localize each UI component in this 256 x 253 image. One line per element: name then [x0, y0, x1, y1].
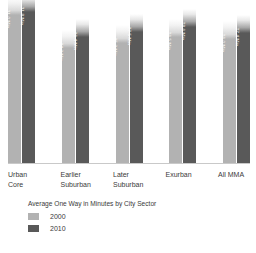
- bar-group-all-mma: 26.0 Min 27.4 Min: [223, 0, 250, 164]
- legend-item-2010[interactable]: 2010: [28, 225, 250, 232]
- category-label-all-mma: All MMA: [218, 170, 250, 189]
- bar-exurban-2000[interactable]: 26.5 Min: [169, 37, 182, 164]
- bar-group-urban-core: 31.0 Min 31.8 Min: [8, 0, 35, 164]
- bar-value-label: 31.0 Min: [2, 10, 15, 28]
- bar-exurban-2010[interactable]: 28.6 Min: [183, 27, 196, 164]
- bar-value-label: 27.4 Min: [231, 27, 244, 45]
- bar-all-mma-2000[interactable]: 26.0 Min: [223, 39, 236, 164]
- bar-all-mma-2010[interactable]: 27.4 Min: [237, 33, 250, 164]
- bar-value-label: 26.4 Min: [69, 32, 82, 50]
- category-axis-labels: Urban Core Earlier Suburban Later Suburb…: [8, 170, 250, 189]
- bar-urban-core-2010[interactable]: 31.8 Min: [22, 12, 35, 164]
- bar-value-label: 25.3 Min: [109, 37, 122, 55]
- bar-group-exurban: 26.5 Min 28.6 Min: [169, 0, 196, 164]
- legend-label-2010: 2010: [50, 225, 66, 232]
- legend-item-2000[interactable]: 2000: [28, 213, 250, 220]
- bar-later-suburban-2000[interactable]: 25.3 Min: [116, 43, 129, 164]
- bar-group-earlier-suburban: 24.3 Min 26.4 Min: [62, 0, 89, 164]
- category-label-urban-core: Urban Core: [8, 170, 40, 189]
- category-label-earlier-suburban: Earlier Suburban: [61, 170, 93, 189]
- bar-value-label: 27.5 Min: [123, 27, 136, 45]
- legend-swatch-2010: [28, 225, 39, 232]
- legend-title: Average One Way in Minutes by City Secto…: [28, 200, 250, 207]
- bar-value-label: 26.0 Min: [217, 34, 230, 52]
- grouped-bar-chart: 31.0 Min 31.8 Min 24.3 Min 26.4 Min: [0, 0, 256, 253]
- bar-earlier-suburban-2000[interactable]: 24.3 Min: [62, 48, 75, 164]
- bar-value-label: 24.3 Min: [55, 42, 68, 60]
- bar-value-label: 26.5 Min: [163, 32, 176, 50]
- bar-earlier-suburban-2010[interactable]: 26.4 Min: [76, 37, 89, 164]
- bar-groups: 31.0 Min 31.8 Min 24.3 Min 26.4 Min: [8, 0, 250, 164]
- legend-label-2000: 2000: [50, 213, 66, 220]
- bar-value-label: 31.8 Min: [16, 6, 29, 24]
- category-label-later-suburban: Later Suburban: [113, 170, 145, 189]
- axis-baseline: [8, 163, 250, 164]
- bar-later-suburban-2010[interactable]: 27.5 Min: [130, 32, 143, 164]
- bar-value-label: 28.6 Min: [177, 22, 190, 40]
- chart-legend: Average One Way in Minutes by City Secto…: [28, 200, 250, 237]
- plot-area: 31.0 Min 31.8 Min 24.3 Min 26.4 Min: [0, 0, 256, 164]
- legend-swatch-2000: [28, 213, 39, 220]
- bar-group-later-suburban: 25.3 Min 27.5 Min: [116, 0, 143, 164]
- category-label-exurban: Exurban: [166, 170, 198, 189]
- bar-urban-core-2000[interactable]: 31.0 Min: [8, 15, 21, 164]
